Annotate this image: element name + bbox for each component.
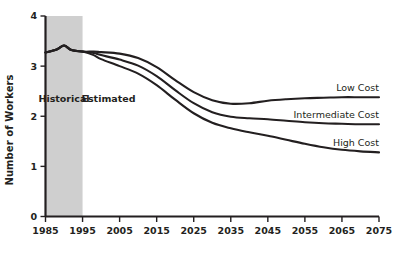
y-axis-ticks: 01234: [30, 10, 45, 222]
x-tick-label: 2045: [255, 225, 281, 236]
x-tick-label: 2005: [106, 225, 132, 236]
y-tick-label: 3: [30, 61, 37, 72]
y-tick-label: 1: [30, 161, 37, 172]
y-tick-label: 4: [30, 10, 37, 21]
y-axis-title: Number of Workers: [4, 74, 15, 185]
plot-annotation-estimated: Estimated: [81, 93, 135, 104]
number-of-workers-line-chart: 01234 1985199520052015202520352045205520…: [0, 0, 394, 257]
series-labels-group: Low CostIntermediate CostHigh Cost: [294, 82, 380, 148]
x-tick-label: 2075: [366, 225, 392, 236]
y-tick-label: 0: [30, 211, 37, 222]
x-tick-label: 1995: [69, 225, 95, 236]
series-label-intermediate-cost: Intermediate Cost: [294, 109, 380, 120]
annotations-group: HistoricalEstimated: [38, 93, 135, 104]
x-tick-label: 2015: [143, 225, 169, 236]
x-tick-label: 2035: [218, 225, 244, 236]
x-tick-label: 2055: [292, 225, 318, 236]
chart-container: 01234 1985199520052015202520352045205520…: [0, 0, 394, 257]
x-axis-ticks: 1985199520052015202520352045205520652075: [32, 217, 392, 237]
series-label-low-cost: Low Cost: [336, 82, 379, 93]
y-tick-label: 2: [30, 111, 37, 122]
series-label-high-cost: High Cost: [333, 137, 379, 148]
x-tick-label: 1985: [32, 225, 58, 236]
x-tick-label: 2065: [329, 225, 355, 236]
x-tick-label: 2025: [180, 225, 206, 236]
